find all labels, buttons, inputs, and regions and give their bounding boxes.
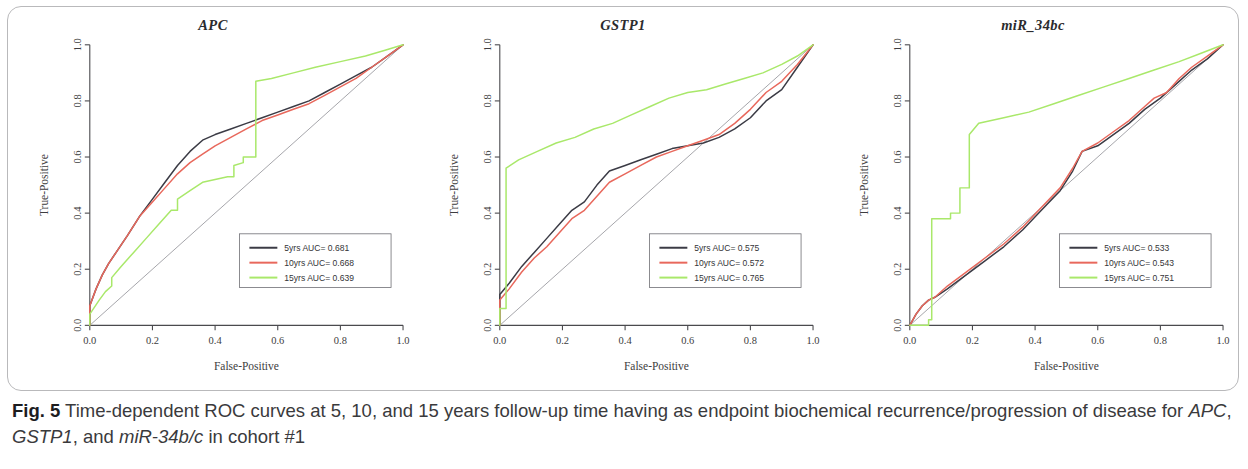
x-tick-label: 0.8 — [334, 335, 347, 346]
y-tick-label: 0.2 — [72, 263, 83, 276]
y-tick-label: 1.0 — [72, 38, 83, 51]
roc-chart-apc: 0.00.20.40.60.81.00.00.20.40.60.81.0Fals… — [8, 7, 418, 390]
y-tick-label: 0.0 — [892, 319, 903, 332]
roc-panels-row: APC 0.00.20.40.60.81.00.00.20.40.60.81.0… — [8, 7, 1238, 390]
figure-frame: APC 0.00.20.40.60.81.00.00.20.40.60.81.0… — [7, 6, 1239, 391]
x-tick-label: 1.0 — [1217, 335, 1230, 346]
x-tick-label: 0.0 — [83, 335, 96, 346]
caption-sep-2: , and — [73, 426, 119, 447]
roc-panel-gstp1: GSTP1 0.00.20.40.60.81.00.00.20.40.60.81… — [418, 7, 828, 390]
legend-label-15yrs: 15yrs AUC= 0.751 — [1104, 273, 1174, 283]
caption-text-end: in cohort #1 — [203, 426, 305, 447]
x-axis-title: False-Positive — [1034, 360, 1099, 372]
x-tick-label: 0.4 — [1029, 335, 1043, 346]
legend-label-10yrs: 10yrs AUC= 0.572 — [694, 258, 764, 268]
x-tick-label: 1.0 — [397, 335, 410, 346]
y-tick-label: 0.6 — [482, 151, 493, 164]
y-axis-title: True-Positive — [38, 154, 50, 216]
x-tick-label: 0.2 — [966, 335, 979, 346]
caption-gene-apc: APC — [1188, 400, 1226, 421]
y-tick-label: 0.6 — [892, 151, 903, 164]
roc-chart-mir34bc: 0.00.20.40.60.81.00.00.20.40.60.81.0Fals… — [828, 7, 1238, 390]
legend-label-15yrs: 15yrs AUC= 0.639 — [284, 273, 354, 283]
y-tick-label: 0.8 — [892, 94, 903, 107]
x-tick-label: 0.0 — [903, 335, 916, 346]
x-tick-label: 0.6 — [681, 335, 694, 346]
x-tick-label: 0.4 — [619, 335, 633, 346]
figure-number: Fig. 5 — [12, 400, 60, 421]
y-tick-label: 0.2 — [482, 263, 493, 276]
legend-label-15yrs: 15yrs AUC= 0.765 — [694, 273, 764, 283]
y-tick-label: 0.4 — [482, 206, 493, 220]
legend-label-5yrs: 5yrs AUC= 0.681 — [284, 243, 349, 253]
x-tick-label: 0.6 — [1091, 335, 1104, 346]
legend-label-5yrs: 5yrs AUC= 0.575 — [694, 243, 759, 253]
y-axis-title: True-Positive — [448, 154, 460, 216]
caption-gene-mir34bc: miR-34b/c — [119, 426, 203, 447]
y-tick-label: 1.0 — [482, 38, 493, 51]
legend-label-10yrs: 10yrs AUC= 0.543 — [1104, 258, 1174, 268]
y-tick-label: 0.4 — [72, 206, 83, 220]
x-axis-title: False-Positive — [624, 360, 689, 372]
x-tick-label: 0.4 — [209, 335, 223, 346]
y-tick-label: 0.8 — [72, 94, 83, 107]
y-tick-label: 0.8 — [482, 94, 493, 107]
legend-label-5yrs: 5yrs AUC= 0.533 — [1104, 243, 1169, 253]
y-axis-title: True-Positive — [858, 154, 870, 216]
roc-panel-apc: APC 0.00.20.40.60.81.00.00.20.40.60.81.0… — [8, 7, 418, 390]
x-tick-label: 0.2 — [146, 335, 159, 346]
roc-panel-mir34bc: miR_34bc 0.00.20.40.60.81.00.00.20.40.60… — [828, 7, 1238, 390]
figure-caption: Fig. 5 Time-dependent ROC curves at 5, 1… — [12, 398, 1240, 450]
legend-label-10yrs: 10yrs AUC= 0.668 — [284, 258, 354, 268]
roc-chart-gstp1: 0.00.20.40.60.81.00.00.20.40.60.81.0Fals… — [418, 7, 828, 390]
caption-sep-1: , — [1226, 400, 1231, 421]
x-tick-label: 0.8 — [1154, 335, 1167, 346]
y-tick-label: 0.2 — [892, 263, 903, 276]
x-tick-label: 0.2 — [556, 335, 569, 346]
caption-gene-gstp1: GSTP1 — [12, 426, 73, 447]
y-tick-label: 0.0 — [72, 319, 83, 332]
y-tick-label: 0.6 — [72, 151, 83, 164]
caption-text-1: Time-dependent ROC curves at 5, 10, and … — [60, 400, 1188, 421]
y-tick-label: 0.0 — [482, 319, 493, 332]
y-tick-label: 1.0 — [892, 38, 903, 51]
x-tick-label: 0.0 — [493, 335, 506, 346]
x-tick-label: 0.6 — [271, 335, 284, 346]
y-tick-label: 0.4 — [892, 206, 903, 220]
x-tick-label: 0.8 — [744, 335, 757, 346]
x-axis-title: False-Positive — [214, 360, 279, 372]
x-tick-label: 1.0 — [807, 335, 820, 346]
